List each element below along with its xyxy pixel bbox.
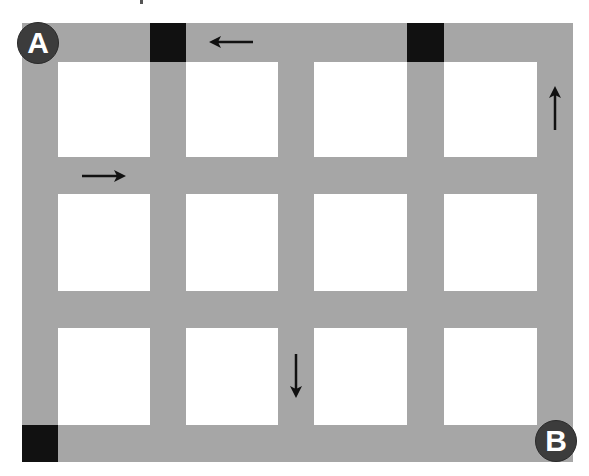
city-block-r1c4: [444, 62, 537, 157]
marker-a: A: [17, 22, 59, 64]
city-block-r2c4: [444, 194, 537, 291]
arrow-up-icon: [547, 84, 563, 132]
city-block-r2c2: [186, 194, 278, 291]
marker-b: B: [535, 420, 577, 462]
city-block-r3c4: [444, 328, 537, 425]
blocked-segment-top-1: [150, 23, 186, 62]
arrow-right-icon: [80, 168, 128, 184]
top-artifact: [140, 0, 143, 4]
arrow-down-icon: [288, 352, 304, 400]
city-block-r3c1: [58, 328, 150, 425]
city-block-r1c2: [186, 62, 278, 157]
blocked-segment-bottom-left: [22, 425, 58, 462]
city-block-r3c3: [314, 328, 407, 425]
city-block-r3c2: [186, 328, 278, 425]
arrow-left-icon: [207, 34, 255, 50]
city-block-r2c1: [58, 194, 150, 291]
city-block-r1c3: [314, 62, 407, 157]
city-block-r2c3: [314, 194, 407, 291]
blocked-segment-top-2: [407, 23, 444, 62]
city-block-r1c1: [58, 62, 150, 157]
